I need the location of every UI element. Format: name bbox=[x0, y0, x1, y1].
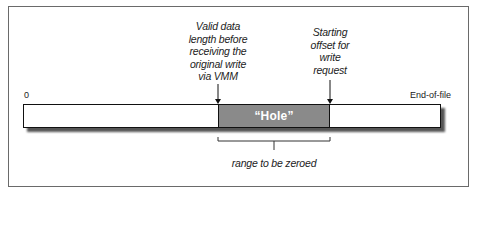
arrow-down-icon bbox=[215, 84, 221, 104]
arrow-down-icon bbox=[327, 80, 333, 104]
range-label: range to be zeroed bbox=[214, 157, 334, 170]
range-bracket bbox=[218, 137, 330, 150]
